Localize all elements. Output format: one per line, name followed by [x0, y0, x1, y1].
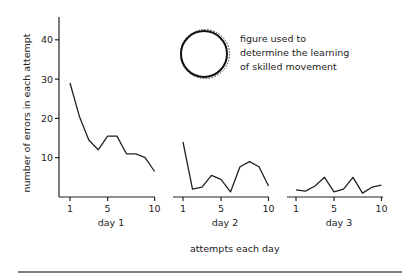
x-tick-label: 10: [262, 203, 274, 214]
series-line-day-3: [296, 177, 382, 193]
x-tick-label: 5: [218, 203, 224, 214]
axes: [55, 17, 383, 201]
panel-label: day 2: [212, 217, 239, 228]
x-tick-label: 10: [149, 203, 161, 214]
panel-label: day 3: [326, 217, 353, 228]
y-tick-label: 10: [41, 152, 53, 163]
series-line-day-1: [70, 83, 155, 172]
x-tick-label: 5: [331, 203, 337, 214]
annotation-line-2: determine the learning: [240, 47, 349, 58]
annotation-line-3: of skilled movement: [240, 61, 337, 72]
annotation-line-1: figure used to: [240, 33, 306, 44]
y-tick-label: 30: [41, 74, 53, 85]
errors-chart: 102030401510day 11510day 21510day 3 figu…: [0, 0, 413, 275]
x-tick-label: 1: [180, 203, 186, 214]
y-axis-label: number of errors in each attempt: [21, 33, 32, 192]
circle-figure-icon: [181, 30, 230, 79]
panel-label: day 1: [98, 217, 125, 228]
x-tick-label: 1: [67, 203, 73, 214]
series-line-day-2: [183, 142, 269, 192]
x-tick-label: 5: [105, 203, 111, 214]
x-axis-label: attempts each day: [190, 243, 280, 254]
y-tick-label: 40: [41, 34, 53, 45]
series-lines: [70, 83, 382, 193]
x-tick-label: 1: [293, 203, 299, 214]
y-tick-label: 20: [41, 113, 53, 124]
x-tick-label: 10: [375, 203, 387, 214]
